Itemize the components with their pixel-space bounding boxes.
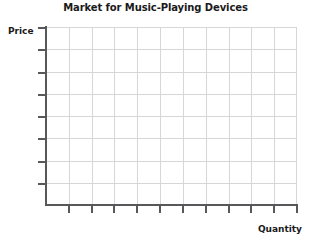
- y-axis-line: [45, 26, 47, 206]
- grid-line-horizontal: [46, 116, 297, 117]
- grid-line-horizontal: [46, 138, 297, 139]
- page-title: Market for Music-Playing Devices: [0, 2, 311, 13]
- grid-line-horizontal: [46, 161, 297, 162]
- y-axis-tick: [38, 72, 45, 74]
- grid-boundary-top: [46, 27, 297, 28]
- x-axis-label: Quantity: [258, 224, 302, 234]
- x-axis-tick: [113, 206, 115, 213]
- y-axis-label: Price: [8, 26, 34, 36]
- chart-figure: Market for Music-Playing Devices Price Q…: [0, 0, 311, 245]
- y-axis-tick: [38, 27, 45, 29]
- x-axis-tick: [68, 206, 70, 213]
- grid-line-horizontal: [46, 183, 297, 184]
- grid-boundary-right: [296, 27, 297, 205]
- y-axis-tick: [38, 94, 45, 96]
- y-axis-tick: [38, 161, 45, 163]
- x-axis-line: [45, 204, 298, 206]
- x-axis-tick: [136, 206, 138, 213]
- x-axis-tick: [205, 206, 207, 213]
- y-axis-tick: [38, 138, 45, 140]
- x-axis-tick: [228, 206, 230, 213]
- x-axis-tick: [182, 206, 184, 213]
- x-axis-tick: [159, 206, 161, 213]
- x-axis-tick: [273, 206, 275, 213]
- y-axis-tick: [38, 49, 45, 51]
- y-axis-tick: [38, 183, 45, 185]
- plot-area: [46, 27, 297, 205]
- x-axis-tick: [250, 206, 252, 213]
- y-axis-tick: [38, 116, 45, 118]
- grid-line-horizontal: [46, 49, 297, 50]
- x-axis-tick: [296, 206, 298, 213]
- x-axis-tick: [91, 206, 93, 213]
- grid-line-horizontal: [46, 94, 297, 95]
- grid-line-horizontal: [46, 72, 297, 73]
